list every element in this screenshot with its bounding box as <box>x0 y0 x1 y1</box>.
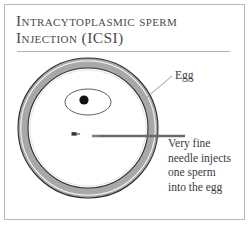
needle-caption: Very fine needle injects one sperm into … <box>168 136 231 194</box>
figure-canvas: Intracytoplasmic sperm Injection (ICSI) … <box>0 0 251 226</box>
nucleus-dot <box>79 95 88 104</box>
needle-caption-line-3: one sperm <box>168 165 231 180</box>
cytoplasm-boundary <box>28 68 148 188</box>
needle-caption-line-2: needle injects <box>168 151 231 166</box>
sperm-tail-mark <box>77 133 80 135</box>
needle-caption-line-1: Very fine <box>168 136 231 151</box>
egg-leader-line <box>146 76 172 98</box>
needle-caption-line-4: into the egg <box>168 180 231 195</box>
sperm-cell-mark <box>72 132 77 135</box>
egg-label: Egg <box>175 69 194 83</box>
